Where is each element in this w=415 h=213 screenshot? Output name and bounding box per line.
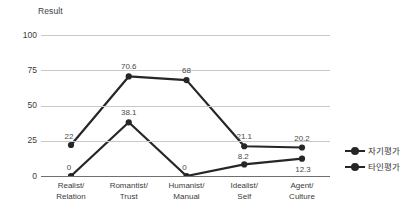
chart-legend: 자기평가 타인평가 bbox=[345, 142, 415, 174]
x-axis-labels: Realist/RelationRomantist/TrustHumanist/… bbox=[41, 180, 330, 210]
plot-area: 2270.66821.120.2038.108.212.3 bbox=[41, 35, 330, 176]
data-point-label: 22 bbox=[65, 133, 74, 141]
chart-title: Result bbox=[38, 6, 63, 16]
data-point-marker[interactable] bbox=[68, 142, 74, 148]
x-axis-tick-label: Humanist/Manual bbox=[168, 180, 204, 202]
data-point-marker[interactable] bbox=[126, 73, 132, 79]
x-axis-tick-label: Idealist/Self bbox=[230, 180, 258, 202]
gridline bbox=[41, 35, 330, 36]
x-axis-tick-label: Romantist/Trust bbox=[110, 180, 148, 202]
data-point-marker[interactable] bbox=[241, 161, 247, 167]
x-axis-tick-label: Agent/Culture bbox=[289, 180, 315, 202]
data-point-label: 68 bbox=[182, 67, 191, 75]
legend-marker-icon bbox=[345, 160, 365, 172]
line-chart: Result 1007550250 2270.66821.120.2038.10… bbox=[0, 0, 415, 213]
data-point-marker[interactable] bbox=[183, 77, 189, 83]
x-axis-tick-label: Realist/Relation bbox=[56, 180, 85, 202]
legend-marker-icon bbox=[345, 144, 365, 156]
y-axis-tick-label: 100 bbox=[7, 31, 37, 40]
legend-item-others[interactable]: 타인평가 bbox=[345, 158, 415, 174]
data-point-marker[interactable] bbox=[299, 144, 305, 150]
gridline bbox=[41, 106, 330, 107]
gridline bbox=[41, 141, 330, 142]
data-point-label: 0 bbox=[182, 164, 186, 172]
legend-item-label: 타인평가 bbox=[368, 160, 400, 172]
data-point-label: 20.2 bbox=[294, 135, 310, 143]
data-point-label: 38.1 bbox=[121, 109, 137, 117]
data-point-label: 70.6 bbox=[121, 63, 137, 71]
y-axis-tick-label: 0 bbox=[7, 172, 37, 181]
y-axis-tick-label: 75 bbox=[7, 66, 37, 75]
data-point-marker[interactable] bbox=[299, 156, 305, 162]
y-axis-tick-label: 25 bbox=[7, 136, 37, 145]
data-point-label: 8.2 bbox=[238, 153, 249, 161]
y-axis-tick-label: 50 bbox=[7, 101, 37, 110]
legend-item-self[interactable]: 자기평가 bbox=[345, 142, 415, 158]
data-point-marker[interactable] bbox=[241, 143, 247, 149]
data-point-label: 0 bbox=[67, 164, 71, 172]
series-line bbox=[71, 76, 302, 147]
data-point-marker[interactable] bbox=[126, 119, 132, 125]
y-axis-labels: 1007550250 bbox=[4, 35, 37, 176]
data-point-label: 21.1 bbox=[236, 133, 252, 141]
data-point-label: 12.3 bbox=[295, 166, 311, 174]
legend-item-label: 자기평가 bbox=[368, 144, 400, 156]
x-axis-line bbox=[41, 176, 330, 177]
